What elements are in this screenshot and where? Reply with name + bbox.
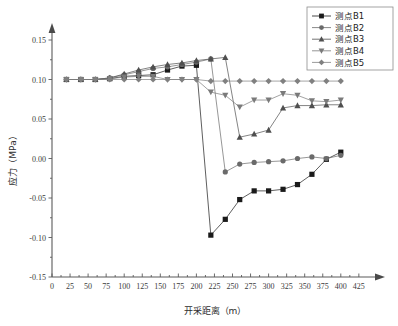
data-marker-square <box>252 188 257 193</box>
data-marker-square <box>237 197 242 202</box>
data-marker-square <box>280 187 285 192</box>
data-marker-square <box>208 233 213 238</box>
data-marker-diamond <box>222 78 228 84</box>
x-tick-label: 375 <box>317 282 329 291</box>
data-marker-triangle-down <box>294 93 300 99</box>
legend-label: 测点B5 <box>335 58 364 68</box>
data-marker-triangle-up <box>266 127 272 133</box>
data-marker-square <box>295 182 300 187</box>
data-marker-square <box>266 188 271 193</box>
series-line <box>66 59 340 172</box>
x-tick-label: 425 <box>353 282 365 291</box>
data-marker-circle <box>252 160 257 165</box>
data-marker-circle <box>309 154 314 159</box>
series-2 <box>64 56 344 174</box>
series-5 <box>63 76 344 84</box>
x-tick-label: 175 <box>172 282 184 291</box>
x-tick-label: 150 <box>154 282 166 291</box>
x-tick-label: 0 <box>50 282 54 291</box>
data-marker-square <box>319 14 324 19</box>
data-marker-circle <box>324 156 329 161</box>
y-tick-label: 0.15 <box>32 36 46 45</box>
x-tick-label: 50 <box>84 282 92 291</box>
legend-label: 测点B1 <box>335 11 364 21</box>
y-tick-label: -0.10 <box>29 234 46 243</box>
y-tick-label: 0.10 <box>32 76 46 85</box>
x-tick-label: 100 <box>118 282 130 291</box>
data-marker-circle <box>223 169 228 174</box>
x-tick-label: 250 <box>227 282 239 291</box>
x-tick-label: 125 <box>136 282 148 291</box>
legend-label: 测点B2 <box>335 23 364 33</box>
x-axis-title: 开采距离（m） <box>184 305 247 316</box>
y-axis-ticks: -0.15-0.10-0.050.000.050.100.15 <box>29 36 52 282</box>
x-tick-label: 275 <box>245 282 257 291</box>
x-axis-arrow <box>375 274 385 281</box>
x-tick-label: 400 <box>335 282 347 291</box>
x-tick-label: 225 <box>208 282 220 291</box>
x-tick-label: 350 <box>299 282 311 291</box>
data-marker-triangle-down <box>323 99 329 105</box>
data-marker-diamond <box>338 78 344 84</box>
series-1 <box>64 63 344 238</box>
legend-label: 测点B3 <box>335 34 364 44</box>
data-marker-circle <box>295 156 300 161</box>
y-tick-label: -0.15 <box>29 273 46 282</box>
data-marker-diamond <box>266 78 272 84</box>
series-group <box>63 54 344 238</box>
chart-canvas: -0.15-0.10-0.050.000.050.100.15025507510… <box>0 0 398 326</box>
legend-label: 测点B4 <box>335 46 364 56</box>
x-tick-label: 300 <box>263 282 275 291</box>
data-marker-circle <box>237 161 242 166</box>
data-marker-diamond <box>294 78 300 84</box>
data-marker-diamond <box>251 78 257 84</box>
x-tick-label: 25 <box>66 282 74 291</box>
legend: 测点B1测点B2测点B3测点B4测点B5 <box>307 7 393 70</box>
x-tick-label: 75 <box>102 282 110 291</box>
y-axis-arrow <box>49 23 56 33</box>
data-marker-triangle-down <box>222 93 228 99</box>
data-marker-diamond <box>208 78 214 84</box>
data-marker-square <box>309 172 314 177</box>
data-marker-triangle-down <box>237 105 243 111</box>
series-line <box>66 65 340 235</box>
y-tick-label: 0.00 <box>32 155 46 164</box>
data-marker-circle <box>338 153 343 158</box>
data-marker-diamond <box>280 78 286 84</box>
y-tick-label: -0.05 <box>29 194 46 203</box>
y-tick-label: 0.05 <box>32 115 46 124</box>
data-marker-square <box>223 217 228 222</box>
data-marker-circle <box>280 158 285 163</box>
data-marker-triangle-up <box>222 54 228 60</box>
data-marker-diamond <box>237 78 243 84</box>
data-marker-diamond <box>323 78 329 84</box>
data-marker-circle <box>319 25 324 30</box>
x-tick-label: 200 <box>190 282 202 291</box>
data-marker-diamond <box>309 78 315 84</box>
data-marker-circle <box>266 159 271 164</box>
stress-vs-mining-distance-chart: -0.15-0.10-0.050.000.050.100.15025507510… <box>0 0 398 326</box>
y-axis-title: 应力（MPa） <box>7 131 18 185</box>
x-tick-label: 325 <box>281 282 293 291</box>
series-line <box>66 57 340 137</box>
